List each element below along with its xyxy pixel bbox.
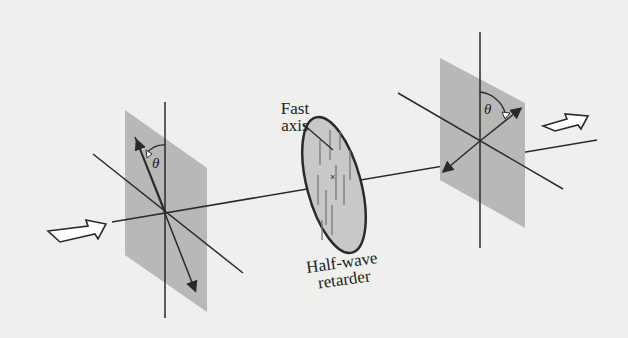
output-arrow: [543, 114, 588, 131]
fast-axis-label-line2: axis: [265, 117, 325, 134]
fast-axis-label: Fast axis: [265, 100, 325, 134]
input-theta-label: θ: [152, 155, 159, 172]
half-wave-retarder-diagram: × Fast axis Half-wave retarder θ θ: [0, 0, 628, 338]
output-theta-label: θ: [484, 101, 491, 118]
output-axes: [398, 32, 563, 248]
svg-text:×: ×: [330, 172, 335, 182]
fast-axis-label-line1: Fast: [265, 100, 325, 117]
input-arrow: [48, 220, 106, 242]
